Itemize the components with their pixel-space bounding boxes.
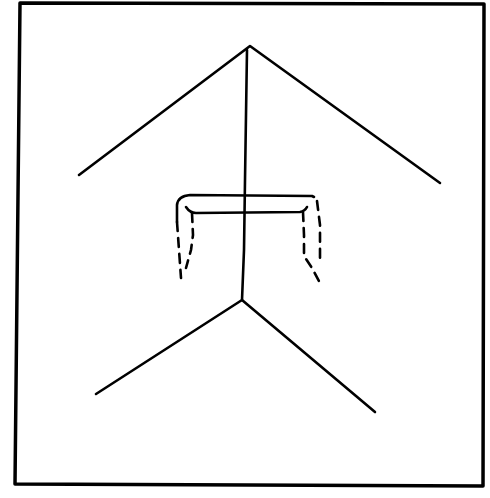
vertical-stem [242,50,247,300]
left-outer-dashed-line [177,222,181,278]
right-outer-dashed-line [317,201,320,262]
crossbar-bottom [186,207,307,213]
right-inner-dashed-line [303,212,320,283]
lower-chevron [96,300,375,412]
line-drawing-figure [0,0,490,498]
upper-chevron [79,46,440,183]
frame-border [15,3,484,486]
left-inner-dashed-line [186,213,193,268]
